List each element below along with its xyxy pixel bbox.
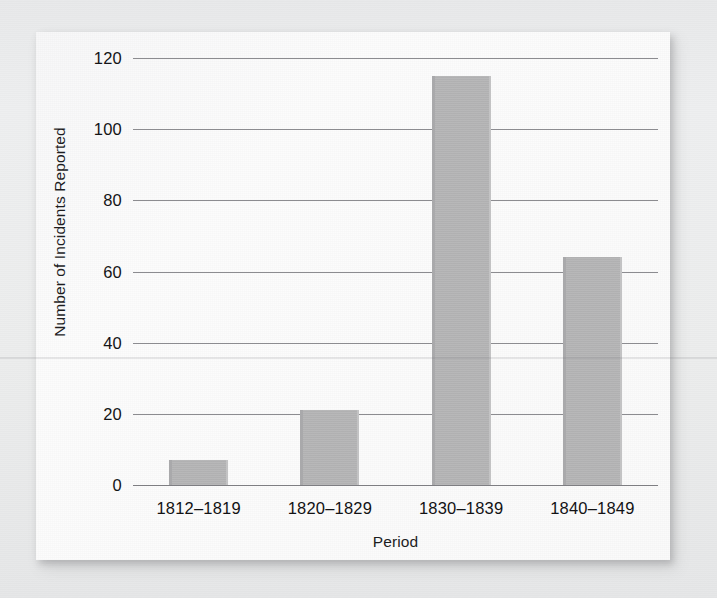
bar: [563, 257, 622, 485]
y-axis-tick-label: 80: [103, 191, 122, 210]
bar: [432, 76, 491, 485]
x-axis-tick-label: 1812–1819: [156, 499, 240, 518]
gridline: [133, 200, 658, 201]
y-axis-title: Number of Incidents Reported: [51, 62, 69, 402]
x-axis-tick-label: 1820–1829: [288, 499, 372, 518]
y-axis-tick-label: 120: [94, 49, 122, 68]
gridline: [133, 58, 658, 59]
y-axis-tick-label: 0: [113, 476, 122, 495]
bar: [169, 460, 228, 485]
y-axis-tick-label: 100: [94, 120, 122, 139]
x-axis-tick-label: 1840–1849: [550, 499, 634, 518]
gridline: [133, 485, 658, 486]
y-axis-tick-label: 60: [103, 262, 122, 281]
y-axis-tick-label: 20: [103, 404, 122, 423]
x-axis-title: Period: [133, 533, 658, 551]
chart-figure: Number of Incidents Reported 12010080604…: [36, 32, 670, 560]
chart-card: Number of Incidents Reported 12010080604…: [36, 32, 670, 560]
plot-area: 120100806040200 1812–18191820–18291830–1…: [133, 58, 658, 485]
x-axis-tick-label: 1830–1839: [419, 499, 503, 518]
bar: [300, 410, 359, 485]
y-axis-tick-label: 40: [103, 333, 122, 352]
gridline: [133, 129, 658, 130]
